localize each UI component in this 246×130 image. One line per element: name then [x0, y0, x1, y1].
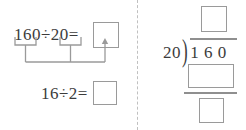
subtraction-line	[184, 92, 237, 94]
equation-16-divided-by-2: 16÷2=	[41, 85, 88, 102]
answer-box-bottom-left[interactable]	[93, 81, 117, 105]
division-bracket-icon: )	[182, 34, 188, 66]
remainder-box[interactable]	[199, 98, 224, 123]
worksheet-canvas: 160÷20= 16÷2= 20)1 6 0	[0, 0, 246, 130]
panel-divider	[137, 0, 138, 130]
bracket-arrow-connector	[12, 36, 124, 84]
dividend: 1 6 0	[190, 43, 227, 62]
divisor-and-dividend: 20)1 6 0	[163, 44, 227, 61]
product-box[interactable]	[188, 64, 234, 88]
division-vinculum	[190, 38, 237, 40]
quotient-box[interactable]	[201, 6, 227, 32]
divisor: 20	[163, 43, 181, 62]
